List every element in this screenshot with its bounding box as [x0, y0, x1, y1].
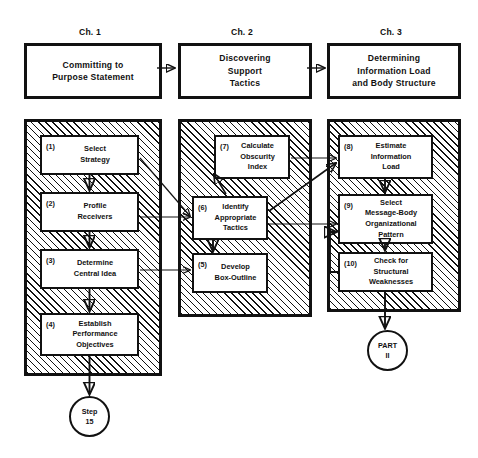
step-box-3-label: DetermineCentral Idea — [42, 251, 137, 287]
step-box-2-label: ProfileReceivers — [42, 194, 137, 230]
step-box-6-label: IdentifyAppropriateTactics — [194, 198, 266, 238]
step-box-4[interactable]: (4) EstablishPerformanceObjectives — [40, 313, 139, 356]
chapter-box-2-title: DiscoveringSupportTactics — [219, 52, 270, 89]
chapter-box-2: DiscoveringSupportTactics — [178, 43, 312, 99]
part-ii-terminator-label: PARTII — [378, 341, 397, 360]
step-box-4-label: EstablishPerformanceObjectives — [42, 315, 137, 354]
step-box-7-label: CalculateObscurityIndex — [216, 137, 288, 177]
step-box-9-label: SelectMessage-BodyOrganizationalPattern — [340, 196, 431, 242]
step-box-8-label: EstimateInformationLoad — [340, 137, 431, 177]
step-box-10-label: Check forStructuralWeaknesses — [340, 254, 431, 290]
step-15-terminator-label: Step15 — [82, 407, 98, 426]
flowchart-canvas: Ch. 1 Committing toPurpose Statement Ch.… — [0, 0, 478, 458]
chapter-label-2: Ch. 2 — [178, 27, 306, 37]
step-box-3[interactable]: (3) DetermineCentral Idea — [40, 249, 139, 289]
step-15-terminator: Step15 — [69, 396, 110, 437]
step-box-8[interactable]: (8) EstimateInformationLoad — [338, 135, 433, 179]
chapter-label-3: Ch. 3 — [327, 27, 455, 37]
step-box-10[interactable]: (10) Check forStructuralWeaknesses — [338, 252, 433, 292]
chapter-box-3-title: DeterminingInformation Loadand Body Stru… — [352, 52, 435, 89]
chapter-box-1-title: Committing toPurpose Statement — [52, 59, 134, 84]
step-box-6[interactable]: (6) IdentifyAppropriateTactics — [192, 196, 268, 240]
chapter-label-1: Ch. 1 — [24, 27, 156, 37]
chapter-box-1: Committing toPurpose Statement — [24, 43, 162, 99]
step-box-1-label: SelectStrategy — [42, 137, 137, 173]
step-box-9[interactable]: (9) SelectMessage-BodyOrganizationalPatt… — [338, 194, 433, 244]
chapter-box-3: DeterminingInformation Loadand Body Stru… — [327, 43, 461, 99]
step-box-5[interactable]: (5) DevelopBox-Outline — [192, 253, 268, 293]
step-box-1[interactable]: (1) SelectStrategy — [40, 135, 139, 175]
part-ii-terminator: PARTII — [367, 330, 408, 371]
step-box-2[interactable]: (2) ProfileReceivers — [40, 192, 139, 232]
step-box-7[interactable]: (7) CalculateObscurityIndex — [214, 135, 290, 179]
step-box-5-label: DevelopBox-Outline — [194, 255, 266, 291]
